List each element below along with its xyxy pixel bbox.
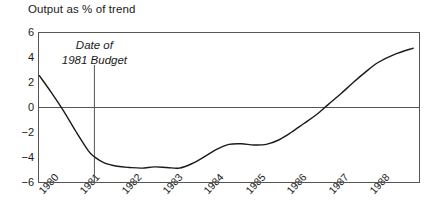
chart-figure: Output as % of trend Date of 1981 Budget…: [0, 0, 439, 220]
plot-area: [0, 0, 439, 220]
data-series-line: [39, 48, 413, 168]
